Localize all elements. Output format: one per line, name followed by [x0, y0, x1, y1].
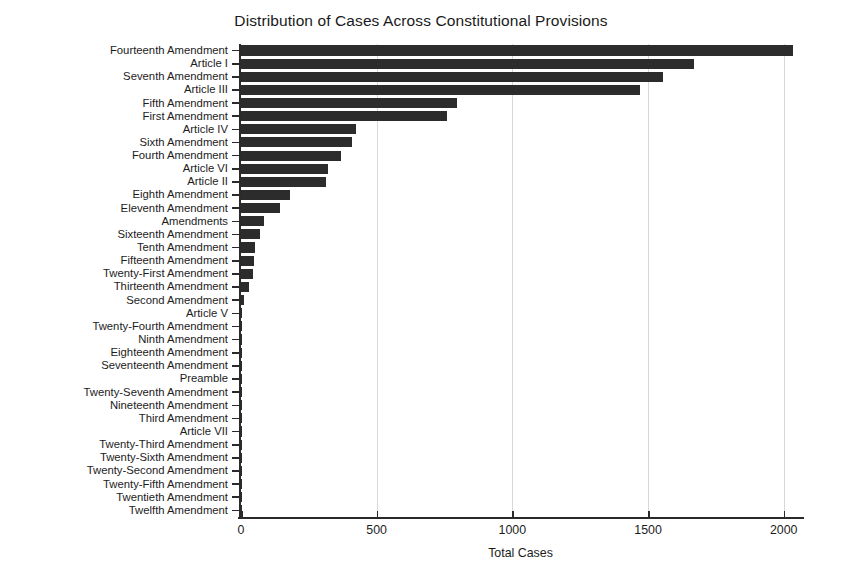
y-axis-label: Nineteenth Amendment — [0, 400, 228, 411]
bar-row[interactable] — [241, 451, 242, 464]
bar-row[interactable] — [241, 359, 242, 372]
y-axis-tick — [232, 50, 239, 52]
bar[interactable] — [241, 98, 457, 108]
bar[interactable] — [241, 308, 242, 318]
bar-row[interactable] — [241, 83, 640, 96]
bar-row[interactable] — [241, 438, 242, 451]
bar-row[interactable] — [241, 307, 242, 320]
bar[interactable] — [241, 387, 242, 397]
bar[interactable] — [241, 426, 242, 436]
bar-row[interactable] — [241, 333, 242, 346]
y-axis-tick-labels: Fourteenth AmendmentArticle ISeventh Ame… — [0, 44, 228, 517]
bar-row[interactable] — [241, 44, 793, 57]
bar[interactable] — [241, 216, 264, 226]
bar-row[interactable] — [241, 241, 255, 254]
bar-row[interactable] — [241, 399, 242, 412]
y-axis-tick — [232, 207, 239, 209]
x-axis-title: Total Cases — [241, 546, 800, 560]
bar-row[interactable] — [241, 97, 457, 110]
bar[interactable] — [241, 164, 328, 174]
bar[interactable] — [241, 282, 249, 292]
bar-row[interactable] — [241, 412, 242, 425]
bar[interactable] — [241, 413, 242, 423]
bar-row[interactable] — [241, 478, 242, 491]
bar-row[interactable] — [241, 175, 326, 188]
bar[interactable] — [241, 479, 242, 489]
bar[interactable] — [241, 151, 341, 161]
bar-row[interactable] — [241, 281, 249, 294]
bar[interactable] — [241, 361, 242, 371]
bar[interactable] — [241, 72, 663, 82]
chart-figure: Distribution of Cases Across Constitutio… — [0, 0, 842, 573]
y-axis-tick — [232, 142, 239, 144]
y-axis-tick — [232, 181, 239, 183]
bar[interactable] — [241, 229, 260, 239]
y-axis-label: Tenth Amendment — [0, 242, 228, 253]
bar[interactable] — [241, 453, 242, 463]
y-axis-label: Sixth Amendment — [0, 137, 228, 148]
bar[interactable] — [241, 111, 447, 121]
x-axis-label: 1500 — [634, 524, 662, 537]
bar[interactable] — [241, 190, 290, 200]
bar-row[interactable] — [241, 57, 694, 70]
y-axis-tick — [232, 457, 239, 459]
bar[interactable] — [241, 45, 793, 55]
bar-row[interactable] — [241, 372, 242, 385]
chart-title: Distribution of Cases Across Constitutio… — [0, 12, 842, 30]
bar[interactable] — [241, 334, 242, 344]
bar-row[interactable] — [241, 215, 264, 228]
bar-row[interactable] — [241, 491, 242, 504]
bar[interactable] — [241, 295, 244, 305]
bar-row[interactable] — [241, 386, 242, 399]
y-axis-tick — [232, 168, 239, 170]
bar-row[interactable] — [241, 425, 242, 438]
bar-row[interactable] — [241, 254, 254, 267]
y-axis-label: Amendments — [0, 216, 228, 227]
x-axis-line — [238, 517, 804, 519]
bar[interactable] — [241, 242, 255, 252]
bar[interactable] — [241, 400, 242, 410]
y-axis-tick — [232, 102, 239, 104]
bar[interactable] — [241, 59, 694, 69]
bar-row[interactable] — [241, 228, 260, 241]
y-axis-label: Eighth Amendment — [0, 189, 228, 200]
y-axis-tick — [232, 194, 239, 196]
bar-row[interactable] — [241, 267, 253, 280]
bar[interactable] — [241, 203, 280, 213]
bar[interactable] — [241, 492, 242, 502]
bar-row[interactable] — [241, 346, 242, 359]
bar-row[interactable] — [241, 189, 290, 202]
bar-row[interactable] — [241, 202, 280, 215]
bar[interactable] — [241, 256, 254, 266]
bar[interactable] — [241, 374, 242, 384]
bar[interactable] — [241, 269, 253, 279]
bar[interactable] — [241, 440, 242, 450]
y-axis-label: Article II — [0, 176, 228, 187]
bar-row[interactable] — [241, 162, 328, 175]
y-axis-tick — [232, 405, 239, 407]
bar[interactable] — [241, 177, 326, 187]
bar-row[interactable] — [241, 464, 242, 477]
bar-row[interactable] — [241, 123, 356, 136]
x-axis-label: 2000 — [770, 524, 798, 537]
y-axis-tick — [232, 496, 239, 498]
bar[interactable] — [241, 466, 242, 476]
bar-row[interactable] — [241, 136, 352, 149]
bar[interactable] — [241, 137, 352, 147]
bar[interactable] — [241, 85, 640, 95]
y-axis-tick — [232, 470, 239, 472]
y-axis-label: Fourteenth Amendment — [0, 45, 228, 56]
bar-row[interactable] — [241, 70, 663, 83]
y-axis-tick — [232, 155, 239, 157]
bar[interactable] — [241, 321, 242, 331]
x-axis-tick — [241, 511, 243, 518]
y-axis-label: Seventh Amendment — [0, 71, 228, 82]
y-axis-label: Twenty-Second Amendment — [0, 465, 228, 476]
bar-row[interactable] — [241, 294, 244, 307]
bar-row[interactable] — [241, 320, 242, 333]
bar[interactable] — [241, 348, 242, 358]
bar-row[interactable] — [241, 149, 341, 162]
bar[interactable] — [241, 124, 356, 134]
x-axis-tick — [648, 511, 650, 518]
bar-row[interactable] — [241, 110, 447, 123]
